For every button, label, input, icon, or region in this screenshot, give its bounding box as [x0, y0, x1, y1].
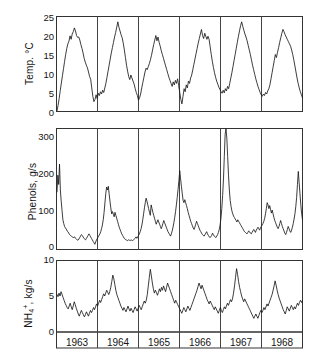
figure-container: Temp. °C 25 20 15 10 5 0 Phenols, g/s 30… [0, 0, 320, 363]
nh4-tick-5: 5 [32, 290, 54, 301]
phenols-tick-300: 300 [22, 131, 54, 142]
phenols-year-separators [98, 129, 262, 250]
temp-tick-5: 5 [32, 88, 54, 99]
year-label-1966: 1966 [179, 337, 221, 348]
temp-tick-0: 0 [32, 107, 54, 118]
temp-tick-15: 15 [32, 50, 54, 61]
year-label-1964: 1964 [97, 337, 139, 348]
year-label-1963: 1963 [56, 337, 98, 348]
phenols-tick-200: 200 [22, 168, 54, 179]
nh4-tick-0: 0 [32, 326, 54, 337]
year-label-1967: 1967 [220, 337, 262, 348]
phenols-panel [56, 128, 304, 252]
phenols-tick-0: 0 [22, 241, 54, 252]
ammonium-year-separators [98, 261, 262, 349]
nh4-tick-10: 10 [32, 254, 54, 265]
temperature-axis-title: Temp. °C [24, 34, 35, 94]
temp-tick-10: 10 [32, 69, 54, 80]
temp-tick-25: 25 [32, 12, 54, 23]
temperature-year-separators [98, 17, 262, 112]
temperature-panel [56, 10, 304, 122]
year-label-1965: 1965 [138, 337, 180, 348]
year-label-1968: 1968 [261, 337, 303, 348]
phenols-axis-title: Phenols, g/s [27, 147, 38, 237]
phenols-tick-100: 100 [22, 205, 54, 216]
temp-tick-20: 20 [32, 31, 54, 42]
